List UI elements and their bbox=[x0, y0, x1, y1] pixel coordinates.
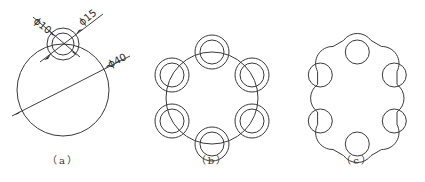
panel-a-drawing: ϕ10 ϕ15 ϕ40 bbox=[12, 7, 130, 136]
arrow-icon bbox=[44, 54, 51, 60]
panel-c-drawing bbox=[308, 33, 406, 162]
outer-profile bbox=[311, 33, 404, 162]
dim-line-phi15 bbox=[40, 14, 103, 62]
panel-a-label: （a） bbox=[47, 152, 79, 167]
boss-array bbox=[155, 35, 269, 161]
panel-b-label: （b） bbox=[196, 152, 228, 167]
dim-label-phi10: ϕ10 bbox=[32, 15, 54, 36]
dim-label-phi15: ϕ15 bbox=[76, 7, 98, 28]
panel-b-drawing bbox=[155, 35, 269, 161]
dim-label-phi40: ϕ40 bbox=[106, 51, 128, 70]
hole-array bbox=[308, 40, 406, 156]
panel-c-label: （c） bbox=[341, 152, 373, 167]
